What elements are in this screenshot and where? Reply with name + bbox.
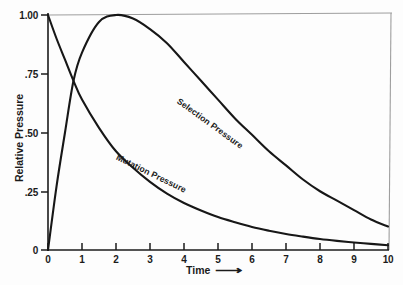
figure-container: 1.00 .75 .50 .25 0 0 1 2 3 4 5 6 7 8 9 1… [0,0,403,285]
x-tick-label-10: 10 [383,254,394,265]
x-axis-ticks [48,243,388,250]
x-tick-label-1: 1 [79,254,84,265]
right-arrow-icon: ⟶ [215,264,242,276]
frame-right-line [389,13,391,250]
x-tick-label-0: 0 [45,254,50,265]
x-tick-label-2: 2 [113,254,118,265]
caption-fragment [22,277,382,285]
x-tick-label-9: 9 [351,254,356,265]
x-tick-label-6: 6 [249,254,254,265]
frame-top-line [48,13,392,15]
chart-plot-area [0,0,403,285]
x-axis-title-text: Time [186,264,210,276]
x-tick-label-8: 8 [317,254,322,265]
y-axis-title: Relative Pressure [13,68,25,208]
y-tick-label-1: 1.00 [8,10,38,21]
x-axis-title: Time ⟶ [186,264,232,276]
x-tick-label-7: 7 [283,254,288,265]
y-tick-label-5: 0 [8,245,38,256]
y-axis-ticks [41,15,48,250]
x-tick-label-3: 3 [147,254,152,265]
